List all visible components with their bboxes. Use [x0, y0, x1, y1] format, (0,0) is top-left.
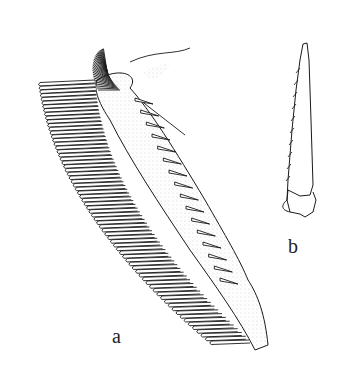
- raker-b: [283, 43, 316, 217]
- label-b: b: [288, 235, 298, 258]
- gill-arch-illustration: [0, 0, 340, 378]
- label-a: a: [112, 325, 121, 348]
- gill-rakers-outer: [39, 49, 251, 345]
